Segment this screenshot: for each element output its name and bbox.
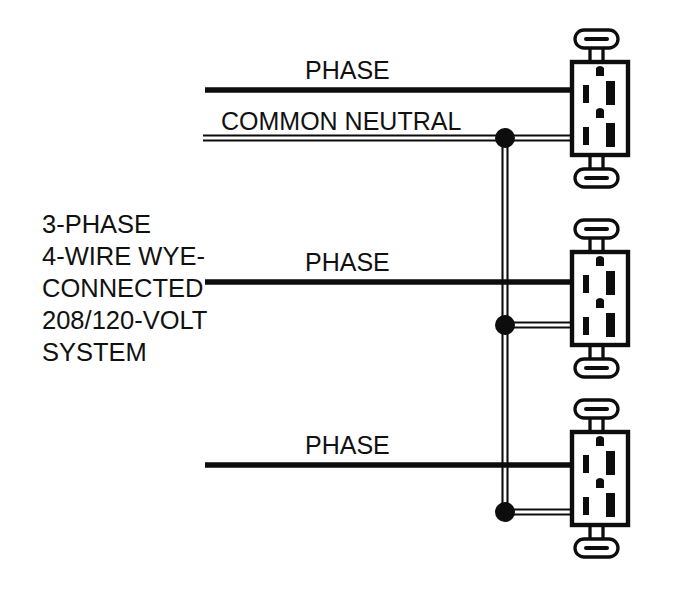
label-phase-c: PHASE [305,431,390,459]
phase-conductor-group [205,90,574,465]
system-label-line-1: 3-PHASE [42,210,151,238]
receptacle-bottom [572,400,628,557]
receptacle-bottom-ground-hole-lower [596,478,604,488]
junction-dot-top [495,128,515,148]
receptacle-top-wide-slot-upper [606,81,615,105]
receptacle-middle-strap-slot-lower [584,366,609,370]
receptacle-middle-narrow-slot-lower [583,317,589,335]
label-phase-a: PHASE [305,56,390,84]
receptacle-middle-wide-slot-lower [606,313,615,337]
receptacle-bottom-ground-hole-upper [596,436,604,446]
wire-label-group: PHASE COMMON NEUTRAL PHASE PHASE [221,56,461,459]
system-label-line-4: 208/120-VOLT [42,306,207,334]
receptacle-top [572,30,628,187]
receptacle-middle [572,220,628,377]
receptacle-top-ground-hole-upper [596,66,604,76]
receptacle-bottom-narrow-slot-upper [583,455,589,473]
system-label-line-5: SYSTEM [42,338,147,366]
receptacle-middle-wide-slot-upper [606,271,615,295]
receptacle-middle-strap-slot-upper [584,227,609,231]
receptacle-bottom-strap-slot-lower [584,546,609,550]
receptacle-middle-ground-hole-lower [596,298,604,308]
receptacle-top-ground-hole-lower [596,108,604,118]
system-label-line-3: CONNECTED [42,274,204,302]
receptacle-top-narrow-slot-upper [583,85,589,103]
receptacle-bottom-strap-slot-upper [584,407,609,411]
receptacle-top-wide-slot-lower [606,123,615,147]
junction-dot-middle [495,315,515,335]
receptacle-bottom-wide-slot-upper [606,451,615,475]
diagram-svg: PHASE COMMON NEUTRAL PHASE PHASE 3-PHASE… [0,0,677,590]
receptacle-bottom-narrow-slot-lower [583,497,589,515]
wiring-diagram: PHASE COMMON NEUTRAL PHASE PHASE 3-PHASE… [0,0,677,590]
receptacle-top-strap-slot-lower [584,176,609,180]
receptacle-top-narrow-slot-lower [583,127,589,145]
junction-dot-bottom [495,502,515,522]
receptacle-top-strap-slot-upper [584,37,609,41]
receptacle-bottom-wide-slot-lower [606,493,615,517]
label-common-neutral: COMMON NEUTRAL [221,107,461,135]
system-label: 3-PHASE 4-WIRE WYE- CONNECTED 208/120-VO… [42,210,207,366]
label-phase-b: PHASE [305,248,390,276]
receptacle-middle-narrow-slot-upper [583,275,589,293]
system-label-line-2: 4-WIRE WYE- [42,242,205,270]
receptacle-middle-ground-hole-upper [596,256,604,266]
